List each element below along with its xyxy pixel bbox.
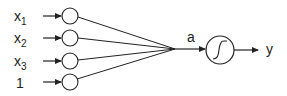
input-circle [62,30,78,46]
input-label-x2: x2 [14,30,27,49]
input-circle [62,74,78,90]
neuron-diagram: x1 x2 x3 1 a y [0,0,287,96]
input-label-bias: 1 [16,75,24,91]
weight-line [77,49,175,79]
weight-line [78,49,175,60]
activation-stage: a y [175,29,273,64]
input-label-x3: x3 [14,53,27,72]
input-label-x1: x1 [14,8,27,27]
input-node-bias: 1 [16,49,175,91]
sum-label: a [187,29,195,45]
input-node-x2: x2 [14,30,175,49]
weight-line [78,17,175,49]
output-label: y [266,41,273,57]
weight-line [78,38,175,49]
input-circle [62,8,78,24]
input-circle [62,53,78,69]
input-node-x3: x3 [14,49,175,72]
input-node-x1: x1 [14,8,175,49]
activation-circle [206,36,234,64]
